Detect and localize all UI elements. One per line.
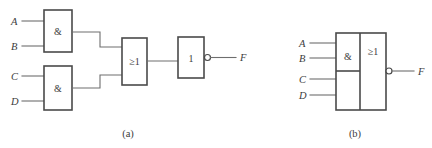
not-gate-symbol: 1: [189, 53, 194, 64]
input-label-d-b: D: [298, 90, 307, 101]
input-label-c: C: [11, 71, 19, 82]
input-label-d: D: [10, 96, 19, 107]
panel-a: A B C D & & ≥1 1 F: [10, 10, 247, 140]
wire-and1-to-or: [72, 32, 122, 47]
and-array-symbol: &: [344, 51, 352, 62]
caption-panel-b: (b): [349, 128, 362, 140]
and-gate-2-symbol: &: [54, 83, 62, 94]
wire-and2-to-or: [72, 75, 122, 88]
input-label-b-b: B: [299, 53, 306, 64]
inversion-bubble-icon-b: [386, 68, 392, 74]
inversion-bubble-icon: [205, 55, 211, 61]
or-section-symbol: ≥1: [368, 46, 379, 57]
output-label-f: F: [239, 52, 247, 63]
panel-b: A B C D & ≥1 F (b): [298, 33, 425, 140]
caption-panel-a: (a): [122, 128, 134, 140]
input-label-c-b: C: [299, 74, 307, 85]
input-label-a: A: [10, 16, 18, 27]
input-label-b: B: [11, 41, 18, 52]
output-label-f-b: F: [417, 66, 425, 77]
and-gate-1-symbol: &: [54, 26, 62, 37]
input-label-a-b: A: [298, 38, 306, 49]
logic-circuit-figure: A B C D & & ≥1 1 F: [0, 0, 432, 148]
or-gate-symbol: ≥1: [129, 56, 140, 67]
